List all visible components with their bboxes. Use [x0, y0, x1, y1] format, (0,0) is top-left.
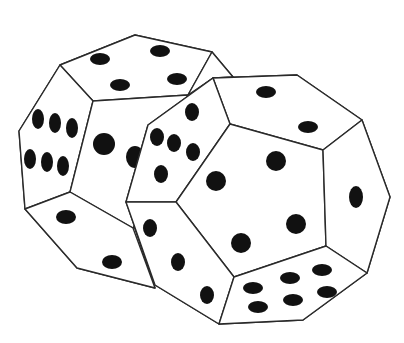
dice-illustration	[0, 0, 404, 343]
front-die	[126, 75, 390, 324]
